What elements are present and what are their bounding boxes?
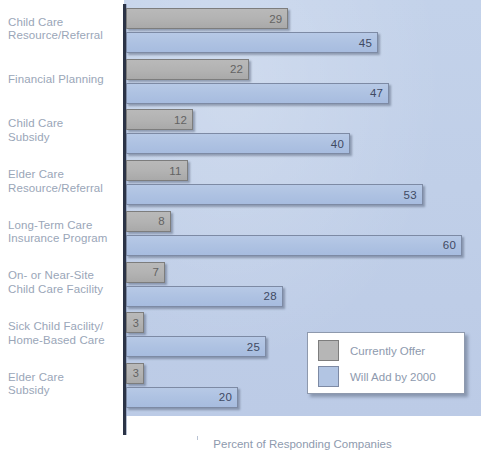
bar-value-label: 3 — [133, 367, 143, 379]
bar-value-label: 12 — [174, 114, 192, 126]
legend-label-will-add-by-2000: Will Add by 2000 — [350, 371, 436, 383]
bar-value-label: 53 — [404, 189, 422, 201]
category-label-line: Sick Child Facility/ — [8, 320, 116, 334]
bar-will-add-by-2000: 47 — [126, 83, 389, 104]
category-label-line: Elder Care — [8, 371, 116, 385]
category-label-line: Resource/Referral — [8, 182, 116, 196]
category-label: Financial Planning — [8, 73, 116, 87]
category-label-line: Insurance Program — [8, 232, 116, 246]
chart-legend: Currently Offer Will Add by 2000 — [307, 332, 465, 394]
bar-currently-offer: 8 — [126, 211, 171, 232]
bar-value-label: 20 — [219, 391, 237, 403]
bar-will-add-by-2000: 28 — [126, 286, 283, 307]
bar-currently-offer: 3 — [126, 312, 144, 333]
bar-currently-offer: 3 — [126, 363, 144, 384]
category-label: Long-Term CareInsurance Program — [8, 219, 116, 246]
category-label: Child CareSubsidy — [8, 117, 116, 144]
bar-value-label: 11 — [169, 165, 186, 177]
legend-item-currently-offer: Currently Offer — [318, 340, 425, 361]
bar-value-label: 29 — [269, 13, 287, 25]
bar-will-add-by-2000: 45 — [126, 32, 378, 53]
category-label: Elder CareResource/Referral — [8, 168, 116, 195]
bar-value-label: 8 — [158, 215, 170, 227]
category-label-line: Financial Planning — [8, 73, 116, 87]
bar-value-label: 40 — [331, 138, 349, 150]
bar-value-label: 45 — [359, 37, 377, 49]
x-axis-title: Percent of Responding Companies — [124, 438, 481, 450]
legend-label-currently-offer: Currently Offer — [350, 345, 425, 357]
category-label-line: Elder Care — [8, 168, 116, 182]
category-label: Sick Child Facility/Home-Based Care — [8, 320, 116, 347]
bar-will-add-by-2000: 53 — [126, 184, 423, 205]
category-label-line: Home-Based Care — [8, 334, 116, 348]
bar-will-add-by-2000: 25 — [126, 336, 266, 357]
bar-will-add-by-2000: 20 — [126, 387, 238, 408]
bar-value-label: 47 — [370, 87, 388, 99]
category-label-line: Child Care — [8, 16, 116, 30]
category-label: Elder CareSubsidy — [8, 371, 116, 398]
bar-currently-offer: 11 — [126, 160, 188, 181]
category-label-line: Subsidy — [8, 131, 116, 145]
bar-currently-offer: 12 — [126, 109, 193, 130]
category-label-line: Resource/Referral — [8, 29, 116, 43]
legend-swatch-blue-icon — [318, 366, 339, 387]
category-label-line: On- or Near-Site — [8, 269, 116, 283]
bar-currently-offer: 7 — [126, 262, 165, 283]
category-label-line: Subsidy — [8, 384, 116, 398]
category-label-line: Child Care Facility — [8, 283, 116, 297]
category-label-line: Child Care — [8, 117, 116, 131]
bar-value-label: 3 — [133, 317, 143, 329]
legend-swatch-gray-icon — [318, 340, 339, 361]
bar-chart: Child CareResource/Referral2945Financial… — [0, 0, 481, 470]
bar-currently-offer: 22 — [126, 59, 249, 80]
bar-will-add-by-2000: 60 — [126, 235, 462, 256]
bar-value-label: 22 — [230, 63, 248, 75]
legend-item-will-add-by-2000: Will Add by 2000 — [318, 366, 436, 387]
category-label: Child CareResource/Referral — [8, 16, 116, 43]
bar-value-label: 7 — [153, 266, 165, 278]
bar-value-label: 25 — [247, 341, 265, 353]
bar-value-label: 60 — [443, 239, 461, 251]
category-label: On- or Near-SiteChild Care Facility — [8, 269, 116, 296]
bar-will-add-by-2000: 40 — [126, 133, 350, 154]
category-label-line: Long-Term Care — [8, 219, 116, 233]
bar-value-label: 28 — [264, 290, 282, 302]
bar-currently-offer: 29 — [126, 8, 288, 29]
